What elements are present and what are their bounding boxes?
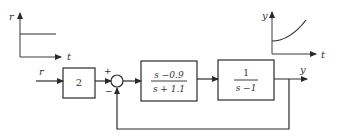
gain-block: 2: [63, 68, 95, 98]
output-plot-x-label: t: [321, 49, 326, 60]
output-plot-y-label: y: [261, 10, 268, 21]
input-plot-y-label: r: [9, 11, 15, 22]
plant-block: 1 s −1: [218, 60, 274, 100]
controller-numerator: s −0.9: [154, 70, 184, 80]
controller-block: s −0.9 s + 1.1: [141, 61, 197, 101]
input-step-plot: r t: [9, 11, 72, 62]
block-diagram: r t y t r 2 + − s −0.9 s + 1.1 1 s −1: [0, 0, 337, 138]
plant-denominator: s −1: [236, 83, 257, 93]
gain-value: 2: [76, 77, 82, 88]
output-response-plot: y t: [261, 10, 326, 60]
output-signal-label: y: [299, 64, 306, 75]
plant-numerator: 1: [243, 68, 249, 78]
minus-sign: −: [105, 86, 113, 96]
input-plot-x-label: t: [67, 51, 72, 62]
growth-response-curve: [272, 20, 306, 41]
plus-sign: +: [104, 66, 112, 76]
feedback-path: [117, 79, 289, 129]
summing-junction-circle: [111, 75, 123, 87]
controller-denominator: s + 1.1: [153, 84, 185, 94]
input-signal-label: r: [39, 66, 45, 77]
